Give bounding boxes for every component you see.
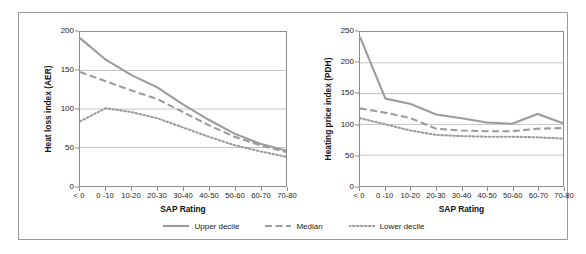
y-tick-label: 200 (48, 27, 74, 35)
series-line-median-right (360, 108, 563, 131)
x-tick-label: 10-20 (121, 192, 140, 200)
y-tick-label: 0 (48, 183, 74, 191)
x-tick-label: 50-60 (225, 192, 244, 200)
x-tick-label: 30-40 (173, 192, 192, 200)
x-tick-label: < 0 (354, 192, 365, 200)
x-tick-mark (436, 187, 437, 191)
x-tick-label: 40-50 (477, 192, 496, 200)
y-tick-mark (355, 31, 359, 32)
y-tick-label: 0 (328, 183, 354, 191)
series-line-lower-decile-left (80, 108, 286, 157)
x-tick-mark (385, 187, 386, 191)
legend-label: Lower decile (380, 222, 425, 231)
bleed-text-line: ........ (28, 0, 90, 1)
y-tick-mark (355, 62, 359, 63)
legend-label: Median (296, 222, 322, 231)
x-tick-label: 70-80 (554, 192, 573, 200)
x-tick-mark (131, 187, 132, 191)
y-tick-label: 200 (328, 58, 354, 66)
x-tick-mark (513, 187, 514, 191)
x-tick-label: 40-50 (199, 192, 218, 200)
y-tick-label: 100 (328, 121, 354, 129)
x-tick-label: 20-30 (426, 192, 445, 200)
top-bleed-text: ........ (0, 0, 586, 8)
y-tick-mark (75, 109, 79, 110)
gridlines-right (360, 63, 563, 155)
x-tick-mark (410, 187, 411, 191)
x-tick-label: 20-30 (147, 192, 166, 200)
y-tick-mark (75, 31, 79, 32)
line-dashed-swatch (265, 223, 291, 229)
x-tick-mark (487, 187, 488, 191)
legend-item[interactable]: Median (265, 222, 322, 231)
x-tick-mark (183, 187, 184, 191)
plot-svg-right (360, 32, 563, 186)
x-tick-label: 50-60 (503, 192, 522, 200)
x-tick-mark (564, 187, 565, 191)
plot-svg-left (80, 32, 286, 186)
x-axis-title-left: SAP Rating (160, 204, 205, 214)
line-dotted-swatch (349, 223, 375, 229)
x-tick-label: 10-20 (401, 192, 420, 200)
legend-item[interactable]: Upper decile (163, 222, 239, 231)
y-tick-label: 250 (328, 27, 354, 35)
y-tick-label: 50 (328, 152, 354, 160)
x-tick-mark (79, 187, 80, 191)
plot-area-left (79, 31, 287, 187)
x-tick-label: < 0 (74, 192, 85, 200)
x-tick-mark (538, 187, 539, 191)
y-tick-mark (355, 93, 359, 94)
y-tick-label: 50 (48, 144, 74, 152)
x-tick-mark (235, 187, 236, 191)
y-axis-title-right: Heating price index (PDH) (323, 58, 333, 161)
figure-container: ........ Heat loss index (AER) 050100150… (0, 0, 586, 254)
plot-area-right (359, 31, 564, 187)
x-tick-label: 0 -10 (96, 192, 113, 200)
x-axis-title-right: SAP Rating (439, 204, 484, 214)
legend-item[interactable]: Lower decile (349, 222, 425, 231)
y-tick-mark (355, 155, 359, 156)
x-tick-label: 60-70 (529, 192, 548, 200)
y-tick-mark (355, 124, 359, 125)
x-tick-mark (287, 187, 288, 191)
y-tick-label: 150 (48, 66, 74, 74)
legend-label: Upper decile (194, 222, 239, 231)
y-tick-label: 100 (48, 105, 74, 113)
chart-panel-heating-price: Heating price index (PDH) 05010015020025… (309, 13, 574, 213)
x-tick-label: 60-70 (251, 192, 270, 200)
x-tick-label: 0 -10 (376, 192, 393, 200)
y-tick-label: 150 (328, 89, 354, 97)
series-line-median-left (80, 72, 286, 152)
y-tick-mark (75, 148, 79, 149)
x-tick-mark (157, 187, 158, 191)
x-tick-mark (209, 187, 210, 191)
x-tick-label: 70-80 (277, 192, 296, 200)
y-tick-mark (75, 70, 79, 71)
series-line-upper-decile-right (360, 37, 563, 124)
chart-frame: Heat loss index (AER) 050100150200 < 00 … (18, 12, 568, 240)
chart-panel-heat-loss: Heat loss index (AER) 050100150200 < 00 … (31, 13, 301, 213)
chart-legend: Upper decileMedianLower decile (19, 215, 569, 237)
line-solid-swatch (163, 223, 189, 229)
series-line-upper-decile-left (80, 38, 286, 150)
x-tick-mark (105, 187, 106, 191)
x-tick-label: 30-40 (452, 192, 471, 200)
x-tick-mark (462, 187, 463, 191)
x-tick-mark (359, 187, 360, 191)
x-tick-mark (261, 187, 262, 191)
series-line-lower-decile-right (360, 118, 563, 138)
